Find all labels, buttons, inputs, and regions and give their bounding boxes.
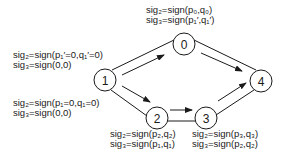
annotation-edge-1-to-2-sig3: sig₃=sign(0,0) [13, 108, 99, 118]
annotation-edge-1-to-2: sig₂=sign(p₁=0,q₁=0) sig₃=sign(0,0) [13, 98, 99, 118]
node-1-label: 1 [102, 74, 109, 88]
annotation-node-3: sig₂=sign(p₃,q₃) sig₃=sign(p₂,q₂) [192, 129, 258, 149]
edge-1-to-2 [111, 86, 150, 116]
node-3-label: 3 [203, 112, 210, 126]
node-4: 4 [250, 70, 272, 92]
node-0-label: 0 [181, 38, 188, 52]
node-3: 3 [195, 107, 217, 129]
annotation-node-0: sig₂=sign(p₀,q₀) sig₃=sign(p₁′,q₁′) [146, 5, 215, 25]
node-1: 1 [94, 69, 116, 91]
node-2-label: 2 [154, 112, 161, 126]
annotation-node-3-sig3: sig₃=sign(p₂,q₂) [192, 139, 258, 149]
annotation-edge-1-to-0-sig3: sig₃=sign(0,0) [13, 60, 103, 70]
node-0: 0 [173, 33, 195, 55]
annotation-node-2-sig3: sig₃=sign(p₁,q₁) [110, 139, 176, 149]
annotation-node-0-sig3: sig₃=sign(p₁′,q₁′) [146, 15, 215, 25]
edge-0-to-4 [194, 40, 256, 71]
edge-3-to-4 [216, 83, 254, 115]
edge-1-to-0 [112, 40, 174, 75]
node-4-label: 4 [258, 75, 265, 89]
edge-2-to-3 [168, 110, 195, 121]
annotation-edge-1-to-0: sig₂=sign(p₁′=0,q₁′=0) sig₃=sign(0,0) [13, 50, 103, 70]
annotation-node-2: sig₂=sign(p₂,q₂) sig₃=sign(p₁,q₁) [110, 129, 176, 149]
node-2: 2 [146, 107, 168, 129]
